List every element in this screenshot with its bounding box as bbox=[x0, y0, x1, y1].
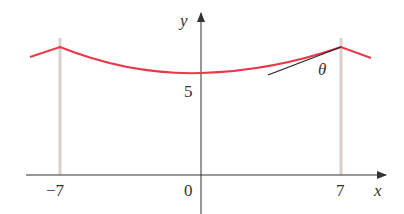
x-tick-neg7: −7 bbox=[46, 181, 65, 200]
x-tick-7: 7 bbox=[336, 181, 345, 200]
catenary-diagram: y 5 θ −7 0 7 x bbox=[0, 0, 404, 214]
y-tick-5: 5 bbox=[184, 82, 193, 101]
y-axis-label: y bbox=[178, 11, 188, 30]
tangent-line bbox=[268, 47, 341, 75]
angle-theta-label: θ bbox=[318, 60, 326, 79]
x-axis-label: x bbox=[373, 181, 382, 200]
x-tick-0: 0 bbox=[184, 181, 193, 200]
